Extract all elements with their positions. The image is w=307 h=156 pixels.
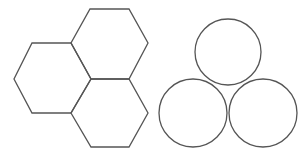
hexagon-cluster <box>14 9 148 147</box>
diagram-canvas <box>0 0 307 156</box>
hexagon-bottom <box>71 79 148 147</box>
hexagon-top <box>71 9 148 79</box>
circle-top <box>195 19 261 85</box>
hexagon-left <box>14 43 91 113</box>
circle-cluster <box>159 19 297 147</box>
circle-bottom-right <box>229 79 297 147</box>
circle-bottom-left <box>159 79 227 147</box>
